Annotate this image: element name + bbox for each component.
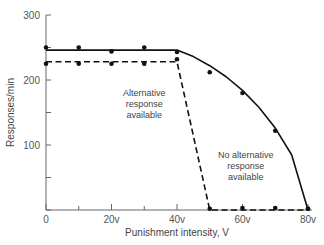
data-point [273,206,278,211]
axes: 100200300020v40v60v80v [23,10,316,226]
data-point [109,49,114,54]
data-point [44,61,49,66]
data-point [175,50,180,55]
y-tick-label: 200 [23,75,40,86]
y-axis-title: Responses/min [5,78,16,147]
data-point [142,61,147,66]
series-line [46,62,308,210]
data-point [76,61,81,66]
annotation-no-alternative: No alternativeresponseavailable [218,150,274,182]
data-point [240,91,245,96]
y-tick-label: 300 [23,10,40,21]
series-no-alternative [44,45,311,211]
data-point [175,57,180,62]
data-point [207,70,212,75]
series-line [46,50,308,210]
data-point [44,45,49,50]
data-point [109,61,114,66]
data-point [142,45,147,50]
data-point [306,206,311,211]
x-tick-label: 80v [300,214,316,225]
x-tick-label: 0 [43,214,49,225]
data-point [273,128,278,133]
x-tick-label: 40v [169,214,185,225]
data-point [207,206,212,211]
x-tick-label: 20v [103,214,119,225]
data-point [240,206,245,211]
x-axis-title: Punishment intensity, V [125,227,229,238]
x-tick-label: 60v [234,214,250,225]
series-layer [44,45,311,211]
annotations: AlternativeresponseavailableNo alternati… [123,88,274,182]
chart: 100200300020v40v60v80v Alternativerespon… [0,0,324,245]
y-tick-label: 100 [23,140,40,151]
series-alternative [44,57,311,211]
annotation-alternative: Alternativeresponseavailable [123,88,166,120]
data-point [76,45,81,50]
